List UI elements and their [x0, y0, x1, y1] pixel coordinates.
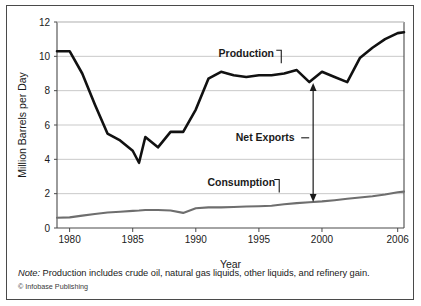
net-exports-arrow-head-top — [310, 83, 317, 91]
y-tick-label: 10 — [39, 51, 51, 62]
credit-line: © Infobase Publishing — [18, 282, 404, 291]
figure-container: 024681012 198019851990199520002006 Produ… — [0, 0, 421, 306]
y-tick-label: 0 — [44, 223, 50, 234]
x-tick-label: 1995 — [248, 234, 271, 245]
y-tick-labels-group: 024681012 — [39, 17, 51, 234]
note-body: Production includes crude oil, natural g… — [40, 268, 370, 278]
note-prefix: Note: — [18, 268, 40, 278]
line-chart: 024681012 198019851990199520002006 Produ… — [0, 0, 421, 306]
y-tick-label: 2 — [44, 188, 50, 199]
x-tick-label: 2006 — [387, 234, 410, 245]
x-tick-label: 1980 — [58, 234, 81, 245]
x-tick-label: 1990 — [185, 234, 208, 245]
y-tick-label: 4 — [44, 154, 50, 165]
note-line: Note: Production includes crude oil, nat… — [18, 268, 404, 278]
y-tick-label: 6 — [44, 120, 50, 131]
net-exports-label: Net Exports — [236, 131, 295, 143]
note-block: Note: Production includes crude oil, nat… — [18, 268, 404, 291]
y-tick-label: 12 — [39, 17, 51, 28]
x-tick-label: 2000 — [311, 234, 334, 245]
x-tick-label: 1985 — [122, 234, 145, 245]
net-exports-arrow-head-bottom — [310, 194, 317, 202]
consumption-label: Consumption — [207, 176, 275, 188]
y-tick-label: 8 — [44, 85, 50, 96]
x-tick-labels-group: 198019851990199520002006 — [58, 234, 409, 245]
production-label: Production — [219, 47, 274, 59]
series-line-consumption — [57, 192, 404, 218]
y-axis-title: Million Barrels per Day — [16, 71, 28, 177]
